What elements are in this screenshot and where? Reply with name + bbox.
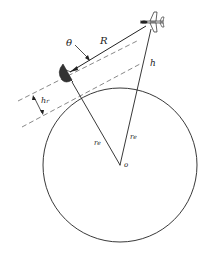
range-label: R [100, 36, 108, 46]
radar-height-label: hr [41, 97, 49, 105]
theta-label: θ [66, 38, 72, 48]
radar-dish-icon [59, 64, 72, 82]
center-point [119, 164, 120, 165]
aircraft-icon [140, 12, 164, 32]
hr-arrow-bottom [40, 110, 44, 115]
height-line [120, 29, 151, 165]
earth-radius-left-label: re [94, 140, 101, 147]
slant-range-line [70, 26, 146, 72]
center-label: o [124, 162, 128, 169]
earth-radius-right-label: re [130, 134, 137, 141]
height-label: h [150, 59, 156, 68]
hr-arrow-top [32, 95, 36, 100]
lower-dashed-line [22, 64, 140, 127]
earth-radius-left [72, 82, 120, 165]
